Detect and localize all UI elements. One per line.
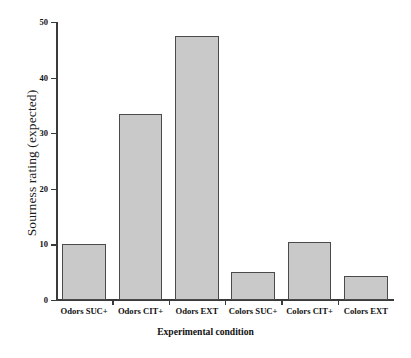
y-axis-tick [51, 22, 56, 23]
y-axis-tick-label: 50 [24, 17, 48, 27]
x-axis-tick-label: Odors CIT+ [118, 306, 163, 316]
y-axis-tick [51, 133, 56, 134]
bar [231, 272, 274, 300]
y-axis-tick-label: 10 [24, 239, 48, 249]
y-axis-tick [51, 189, 56, 190]
y-axis-tick [51, 300, 56, 301]
x-axis-tick-label: Odors EXT [175, 306, 218, 316]
x-axis-tick [225, 300, 226, 305]
x-axis-tick-label: Colors EXT [344, 306, 388, 316]
y-axis-tick-label: 20 [24, 184, 48, 194]
y-axis-line [56, 22, 58, 300]
bar [288, 242, 331, 300]
x-axis-tick-label: Odors SUC+ [61, 306, 108, 316]
bar [344, 276, 387, 300]
x-axis-tick-label: Colors SUC+ [229, 306, 278, 316]
y-axis-tick-label: 40 [24, 73, 48, 83]
bar [119, 114, 162, 300]
chart-figure: Sourness rating (expected) Experimental … [0, 0, 411, 358]
y-axis-tick [51, 244, 56, 245]
x-axis-tick [338, 300, 339, 305]
plot-area [56, 22, 394, 300]
x-axis-tick [169, 300, 170, 305]
x-axis-tick [112, 300, 113, 305]
x-axis-tick-label: Colors CIT+ [286, 306, 333, 316]
bar [175, 36, 218, 300]
y-axis-tick [51, 78, 56, 79]
x-axis-title: Experimental condition [0, 326, 411, 337]
bar [62, 244, 105, 300]
y-axis-tick-label: 0 [24, 295, 48, 305]
x-axis-tick [281, 300, 282, 305]
y-axis-tick-label: 30 [24, 128, 48, 138]
